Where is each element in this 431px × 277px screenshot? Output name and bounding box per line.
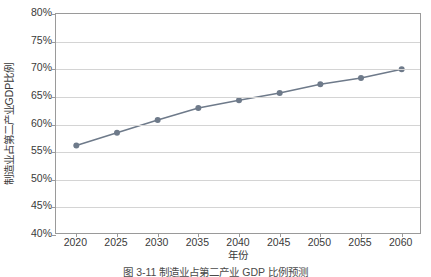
y-axis-tick-mark <box>52 69 56 70</box>
y-axis-tick-mark <box>52 125 56 126</box>
data-point-marker: 2020: 56.2% <box>73 143 79 149</box>
gridline-y <box>56 152 420 153</box>
y-axis-title-text: 制造业占第二产业GDP比例 <box>2 62 16 185</box>
data-point-marker: 2050: 67.3% <box>317 81 323 87</box>
gridline-y <box>56 69 420 70</box>
x-axis-tick-label: 2045 <box>259 236 299 248</box>
data-point-marker: 2035: 63% <box>195 105 201 111</box>
x-axis-tick-labels: 202020252030203520402045205020552060 <box>55 236 421 249</box>
y-axis-tick-mark <box>52 14 56 15</box>
gridline-y <box>56 97 420 98</box>
y-axis-tick-labels: 80%75%70%65%60%55%50%45%40% <box>16 0 52 277</box>
y-axis-tick-mark <box>52 42 56 43</box>
data-point-marker: 2045: 65.7% <box>277 90 283 96</box>
gridline-y <box>56 42 420 43</box>
x-axis-tick-label: 2035 <box>177 236 217 248</box>
data-point-marker: 2030: 60.8% <box>155 117 161 123</box>
x-axis-title: 年份 <box>55 249 421 261</box>
gridline-y <box>56 180 420 181</box>
data-point-marker: 2055: 68.4% <box>358 75 364 81</box>
y-axis-tick-label: 70% <box>18 62 52 73</box>
x-axis-tick-label: 2030 <box>137 236 177 248</box>
figure-caption: 图 3-11 制造业占第二产业 GDP 比例预测 <box>0 266 431 277</box>
y-axis-tick-mark <box>52 152 56 153</box>
y-axis-tick-mark <box>52 97 56 98</box>
gridline-y <box>56 125 420 126</box>
y-axis-tick-mark <box>52 207 56 208</box>
plot-area: 2020: 56.2%2025: 58.5%2030: 60.8%2035: 6… <box>55 13 421 234</box>
figure-root: 制造业占第二产业GDP比例 80%75%70%65%60%55%50%45%40… <box>0 0 431 277</box>
y-axis-tick-mark <box>52 180 56 181</box>
x-axis-tick-label: 2020 <box>55 236 95 248</box>
series-line <box>76 69 401 145</box>
y-axis-tick-label: 75% <box>18 35 52 46</box>
x-axis-tick-label: 2060 <box>381 236 421 248</box>
gridline-y <box>56 207 420 208</box>
data-point-marker: 2040: 64.4% <box>236 97 242 103</box>
y-axis-tick-label: 45% <box>18 200 52 211</box>
y-axis-tick-label: 65% <box>18 90 52 101</box>
y-axis-tick-label: 55% <box>18 145 52 156</box>
y-axis-tick-label: 60% <box>18 118 52 129</box>
y-axis-tick-label: 40% <box>18 228 52 239</box>
x-axis-tick-label: 2025 <box>96 236 136 248</box>
y-axis-tick-label: 50% <box>18 173 52 184</box>
x-axis-tick-label: 2040 <box>218 236 258 248</box>
y-axis-title: 制造业占第二产业GDP比例 <box>2 13 16 234</box>
y-axis-tick-label: 80% <box>18 7 52 18</box>
data-point-marker: 2025: 58.5% <box>114 130 120 136</box>
x-axis-tick-label: 2055 <box>340 236 380 248</box>
x-axis-tick-label: 2050 <box>299 236 339 248</box>
